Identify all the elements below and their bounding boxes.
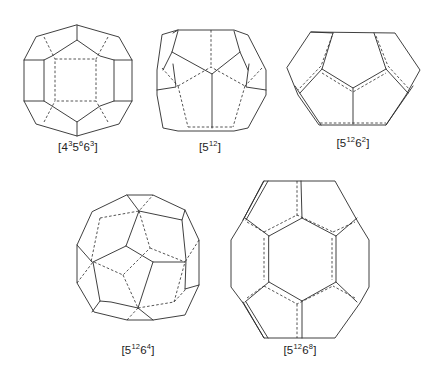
- cage-label-5-12-6-4: [51264]: [121, 343, 154, 357]
- cage-label-4-3-5-6-6-3: [435663]: [58, 140, 98, 154]
- cage-label-5-12-6-8: [51268]: [283, 343, 316, 357]
- clathrate-cages-figure: [435663] [512] [51262] [51264] [51268]: [0, 0, 439, 377]
- cage-label-5-12: [512]: [199, 140, 221, 154]
- cage-5-12-6-8-drawing: [0, 0, 439, 377]
- cage-label-5-12-6-2: [51262]: [336, 136, 369, 150]
